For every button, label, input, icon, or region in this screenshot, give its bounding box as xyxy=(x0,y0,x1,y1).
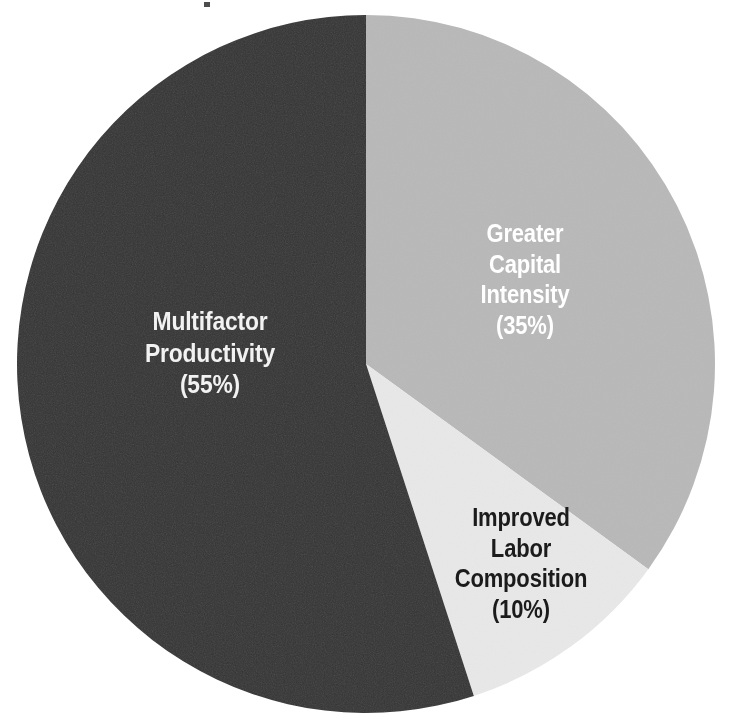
pie-chart-canvas xyxy=(0,0,745,727)
pie-chart: Multifactor Productivity (55%) Greater C… xyxy=(0,0,745,727)
scan-artifact xyxy=(204,2,210,7)
